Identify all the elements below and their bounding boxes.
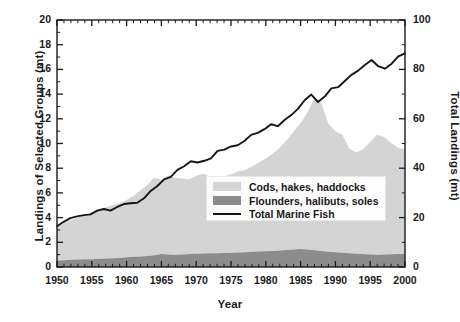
x-axis-title: Year (0, 298, 460, 310)
legend-label-total: Total Marine Fish (249, 208, 335, 220)
legend-swatch-flounders (213, 196, 241, 205)
y-tick-label-left: 6 (21, 186, 51, 198)
y-tick-label-left: 16 (21, 62, 51, 74)
y-tick-label-left: 10 (21, 137, 51, 149)
y-tick-label-left: 8 (21, 161, 51, 173)
y-tick-label-right: 0 (413, 260, 443, 272)
y-tick-label-right: 20 (413, 211, 443, 223)
legend-label-flounders: Flounders, halibuts, soles (249, 195, 379, 207)
y-tick-label-left: 0 (21, 260, 51, 272)
legend-swatch-cods (213, 182, 241, 191)
chart-legend: Cods, hakes, haddocks Flounders, halibut… (206, 176, 386, 221)
y-tick-label-left: 12 (21, 112, 51, 124)
y-tick-label-right: 80 (413, 62, 443, 74)
y-tick-label-right: 60 (413, 112, 443, 124)
y-axis-right-title: Total Landings (mt) (449, 21, 460, 271)
y-tick-label-left: 2 (21, 235, 51, 247)
y-tick-label-right: 100 (413, 13, 443, 25)
figure-container: Landings of Selected Groups (mt) Total L… (0, 0, 460, 322)
y-tick-label-left: 14 (21, 87, 51, 99)
legend-item-total: Total Marine Fish (213, 207, 335, 220)
y-tick-label-left: 20 (21, 13, 51, 25)
y-tick-label-right: 40 (413, 161, 443, 173)
x-tick-label: 2000 (385, 274, 425, 286)
y-tick-label-left: 18 (21, 38, 51, 50)
legend-line-total (213, 213, 241, 215)
legend-item-cods: Cods, hakes, haddocks (213, 180, 366, 193)
legend-item-flounders: Flounders, halibuts, soles (213, 194, 379, 207)
legend-label-cods: Cods, hakes, haddocks (249, 181, 366, 193)
y-tick-label-left: 4 (21, 211, 51, 223)
